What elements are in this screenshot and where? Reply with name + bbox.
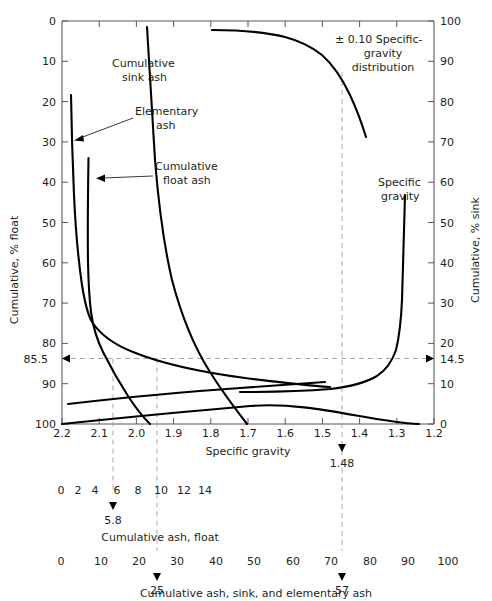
curve-sg-distribution: [212, 30, 366, 137]
sg-tick-label-1-3: 1.3: [388, 427, 406, 440]
sg-tick-label-2-0: 2.0: [128, 427, 146, 440]
left-axis-ticks: 0 10 20 30 40 50 60 70 80 85.5 90 100: [24, 15, 69, 431]
right-axis-title: Cumulative, % sink: [469, 196, 482, 302]
total-ash-axis-title: Cumulative ash, sink, and elementary ash: [140, 587, 372, 600]
total-ash-tick-90: 90: [401, 555, 415, 568]
total-ash-tick-100: 100: [438, 555, 459, 568]
total-ash-tick-40: 40: [209, 555, 223, 568]
label-cumulative-float-ash-line2: float ash: [163, 174, 211, 187]
left-tick-label-30: 30: [42, 136, 56, 149]
right-tick-label-40: 40: [440, 257, 454, 270]
left-tick-label-80: 80: [42, 337, 56, 350]
total-ash-tick-50: 50: [247, 555, 261, 568]
leader-cumulative-float-ash: [103, 176, 153, 178]
sg-tick-label-1-4: 1.4: [351, 427, 369, 440]
right-tick-label-14-5: 14.5: [440, 353, 465, 366]
marker-1-48: 1.48: [330, 444, 355, 470]
float-ash-tick-10: 10: [154, 484, 168, 497]
label-sg-distribution-line3: distribution: [352, 61, 415, 74]
guide-lines: [62, 72, 434, 551]
curve-specific-gravity: [240, 195, 405, 392]
label-specific-gravity-line1: Specific: [378, 176, 421, 189]
right-guide-arrow-icon: [426, 355, 434, 363]
sg-tick-label-1-2: 1.2: [425, 427, 443, 440]
marker-arrow-57-icon: [338, 573, 346, 581]
curve-cumulative-sink-ash: [147, 27, 247, 424]
annotation-specific-gravity: Specific gravity: [378, 176, 421, 203]
sg-tick-label-1-6: 1.6: [276, 427, 294, 440]
washability-chart-figure: 0 10 20 30 40 50 60 70 80 85.5 90 100 Cu…: [0, 0, 492, 601]
float-ash-tick-0: 0: [58, 484, 65, 497]
bottom-sg-axis-ticks: 2.2 2.1 2.0 1.9 1.8 1.7 1.6 1.5 1.4 1.3 …: [53, 418, 443, 440]
float-ash-tick-12: 12: [177, 484, 191, 497]
annotation-sg-distribution: ± 0.10 Specific- gravity distribution: [335, 33, 423, 74]
total-ash-tick-0: 0: [58, 555, 65, 568]
left-tick-label-60: 60: [42, 257, 56, 270]
right-tick-label-90: 90: [440, 55, 454, 68]
float-ash-tick-6: 6: [114, 484, 121, 497]
right-tick-label-10: 10: [440, 378, 454, 391]
left-tick-label-85-5: 85.5: [24, 353, 49, 366]
curve-elementary-ash: [71, 95, 330, 387]
left-tick-label-0: 0: [49, 15, 56, 28]
left-tick-label-20: 20: [42, 96, 56, 109]
marker-arrow-25-icon: [153, 573, 161, 581]
plot-frame: [62, 21, 434, 424]
label-sg-distribution-line2: gravity: [364, 47, 403, 60]
bottom-sg-axis-title: Specific gravity: [206, 445, 291, 458]
left-axis-title: Cumulative, % float: [8, 215, 21, 324]
right-tick-label-100: 100: [440, 15, 461, 28]
sg-tick-label-1-8: 1.8: [202, 427, 220, 440]
left-tick-label-40: 40: [42, 176, 56, 189]
left-guide-arrow-icon: [62, 355, 70, 363]
right-tick-label-80: 80: [440, 96, 454, 109]
label-elementary-ash-line1: Elementary: [135, 105, 199, 118]
leader-arrow-float-ash-icon: [96, 175, 105, 183]
total-ash-tick-60: 60: [286, 555, 300, 568]
label-cumulative-sink-ash-line2: sink ash: [122, 71, 167, 84]
total-ash-tick-80: 80: [363, 555, 377, 568]
total-ash-tick-20: 20: [132, 555, 146, 568]
right-tick-label-20: 20: [440, 337, 454, 350]
float-ash-tick-2: 2: [75, 484, 82, 497]
sg-tick-label-1-5: 1.5: [314, 427, 332, 440]
left-tick-label-90: 90: [42, 378, 56, 391]
sg-tick-label-1-9: 1.9: [165, 427, 183, 440]
left-tick-label-10: 10: [42, 55, 56, 68]
chart-canvas: 0 10 20 30 40 50 60 70 80 85.5 90 100 Cu…: [0, 0, 492, 601]
curve-cumulative-float-ash: [88, 158, 150, 424]
float-ash-tick-14: 14: [198, 484, 212, 497]
right-tick-label-50: 50: [440, 217, 454, 230]
marker-arrow-1-48-icon: [338, 444, 346, 452]
label-specific-gravity-line2: gravity: [381, 190, 420, 203]
float-ash-tick-4: 4: [92, 484, 99, 497]
right-tick-label-60: 60: [440, 176, 454, 189]
label-sg-distribution-line1: ± 0.10 Specific-: [335, 33, 423, 46]
label-cumulative-float-ash-line1: Cumulative: [155, 160, 218, 173]
marker-label-1-48: 1.48: [330, 457, 355, 470]
leader-arrow-elementary-ash-icon: [74, 135, 84, 142]
curve-lower-rising-line: [68, 382, 325, 404]
data-curves: [62, 27, 419, 424]
top-axis-ticks: [99, 21, 397, 27]
annotation-cumulative-sink-ash: Cumulative sink ash: [112, 57, 175, 84]
float-ash-tick-8: 8: [135, 484, 142, 497]
sg-tick-label-2-2: 2.2: [53, 427, 71, 440]
right-tick-label-30: 30: [440, 297, 454, 310]
label-cumulative-sink-ash-line1: Cumulative: [112, 57, 175, 70]
right-tick-label-70: 70: [440, 136, 454, 149]
float-ash-scale: 0 2 4 6 8 10 12 14 5.8 Cumulative ash, f…: [58, 484, 220, 544]
sg-tick-label-1-7: 1.7: [239, 427, 257, 440]
leader-elementary-ash: [80, 118, 133, 138]
marker-arrow-5-8-icon: [109, 502, 117, 510]
left-tick-label-70: 70: [42, 297, 56, 310]
label-elementary-ash-line2: ash: [156, 119, 175, 132]
marker-label-5-8: 5.8: [104, 514, 122, 527]
float-ash-axis-title: Cumulative ash, float: [101, 531, 219, 544]
total-ash-tick-30: 30: [170, 555, 184, 568]
left-tick-label-50: 50: [42, 217, 56, 230]
total-ash-tick-70: 70: [324, 555, 338, 568]
sg-tick-label-2-1: 2.1: [90, 427, 108, 440]
total-ash-tick-10: 10: [94, 555, 108, 568]
annotation-elementary-ash: Elementary ash: [74, 105, 199, 142]
